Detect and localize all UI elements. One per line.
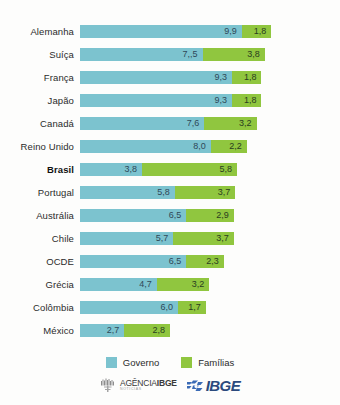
bar-track: 9,31,8 xyxy=(80,71,261,84)
bar-segment-familias: 2,8 xyxy=(124,324,170,337)
bar-segment-familias: 3,2 xyxy=(204,117,256,130)
bar-value-governo: 3,8 xyxy=(125,165,143,174)
agencia-ibge-logo[interactable]: AGÊNCIAIBGE NOTÍCIAS xyxy=(100,378,177,393)
bar-segment-governo: 4,7 xyxy=(80,278,157,291)
bar-value-governo: 4,7 xyxy=(139,280,157,289)
bar-row-label: México xyxy=(0,326,80,336)
bar-value-familias: 2,2 xyxy=(229,142,247,151)
bar-segment-governo: 2,7 xyxy=(80,324,124,337)
legend-label-governo: Governo xyxy=(123,358,159,368)
bar-value-familias: 5,8 xyxy=(219,165,237,174)
bar-row: Canadá7,63,2 xyxy=(0,112,340,135)
bar-segment-governo: 6,5 xyxy=(80,255,186,268)
bar-row: Colômbia6,01,7 xyxy=(0,296,340,319)
bar-value-familias: 2,9 xyxy=(216,211,234,220)
stacked-bar-chart: Alemanha9,91,8Suíça7,,53,8França9,31,8Ja… xyxy=(0,0,340,405)
bar-segment-familias: 3,8 xyxy=(203,48,265,61)
bar-track: 9,31,8 xyxy=(80,94,261,107)
bar-value-familias: 3,8 xyxy=(247,50,265,59)
agencia-ibge-mark-icon xyxy=(100,378,117,393)
bar-track: 9,91,8 xyxy=(80,25,271,38)
bar-value-governo: 2,7 xyxy=(107,326,125,335)
bar-row: México2,72,8 xyxy=(0,319,340,342)
legend-item-governo[interactable]: Governo xyxy=(106,357,159,368)
bar-row: Japão9,31,8 xyxy=(0,89,340,112)
legend-swatch-governo-icon xyxy=(106,357,117,368)
bar-row-label: Alemanha xyxy=(0,27,80,37)
bar-row-label: Reino Unido xyxy=(0,142,80,152)
bar-value-governo: 9,9 xyxy=(224,27,242,36)
bar-value-familias: 2,8 xyxy=(152,326,170,335)
bar-segment-governo: 6,5 xyxy=(80,209,186,222)
bar-value-governo: 6,5 xyxy=(169,211,187,220)
bar-track: 8,02,2 xyxy=(80,140,247,153)
bar-row-label: Suíça xyxy=(0,50,80,60)
bar-row: França9,31,8 xyxy=(0,66,340,89)
chart-legend: Governo Famílias xyxy=(0,357,340,368)
ibge-mark-icon xyxy=(187,379,204,392)
bar-segment-familias: 2,2 xyxy=(211,140,247,153)
bar-track: 3,85,8 xyxy=(80,163,237,176)
bar-segment-familias: 1,7 xyxy=(178,301,206,314)
ibge-wordmark: IBGE xyxy=(206,378,240,393)
bar-row-label: Chile xyxy=(0,234,80,244)
bar-segment-governo: 5,8 xyxy=(80,186,175,199)
bar-value-governo: 5,8 xyxy=(157,188,175,197)
bar-value-familias: 3,2 xyxy=(192,280,210,289)
bar-row: Chile5,73,7 xyxy=(0,227,340,250)
legend-swatch-familias-icon xyxy=(181,357,192,368)
bar-row-label: Grécia xyxy=(0,280,80,290)
bar-track: 6,01,7 xyxy=(80,301,206,314)
bar-segment-familias: 2,9 xyxy=(186,209,233,222)
bar-segment-familias: 1,8 xyxy=(232,71,261,84)
bar-row: Brasil3,85,8 xyxy=(0,158,340,181)
bar-track: 6,52,9 xyxy=(80,209,234,222)
bar-segment-governo: 7,6 xyxy=(80,117,204,130)
agencia-ibge-text: AGÊNCIAIBGE NOTÍCIAS xyxy=(120,379,177,392)
bar-value-governo: 9,3 xyxy=(215,73,233,82)
bar-segment-familias: 3,2 xyxy=(157,278,209,291)
bar-row-label: Austrália xyxy=(0,211,80,221)
bar-segment-governo: 3,8 xyxy=(80,163,142,176)
bar-row-label: Brasil xyxy=(0,165,80,175)
bar-track: 2,72,8 xyxy=(80,324,170,337)
bar-segment-familias: 1,8 xyxy=(242,25,271,38)
bar-row: Alemanha9,91,8 xyxy=(0,20,340,43)
bar-segment-governo: 8,0 xyxy=(80,140,211,153)
bar-value-familias: 1,8 xyxy=(254,27,272,36)
legend-label-familias: Famílias xyxy=(198,358,234,368)
bar-row-label: OCDE xyxy=(0,257,80,267)
ibge-logo[interactable]: IBGE xyxy=(187,378,240,393)
bar-row: Austrália6,52,9 xyxy=(0,204,340,227)
legend-item-familias[interactable]: Famílias xyxy=(181,357,234,368)
bar-track: 4,73,2 xyxy=(80,278,209,291)
bar-value-governo: 6,5 xyxy=(169,257,187,266)
agencia-ibge-subtitle: NOTÍCIAS xyxy=(120,388,177,392)
bar-row: OCDE6,52,3 xyxy=(0,250,340,273)
bar-row: Grécia4,73,2 xyxy=(0,273,340,296)
bar-track: 7,,53,8 xyxy=(80,48,265,61)
footer-logos: AGÊNCIAIBGE NOTÍCIAS IBGE xyxy=(0,378,340,393)
agencia-ibge-title-prefix: AGÊNCIA xyxy=(120,378,157,388)
bar-segment-governo: 9,9 xyxy=(80,25,242,38)
bar-value-familias: 2,3 xyxy=(206,257,224,266)
bar-value-familias: 3,2 xyxy=(239,119,257,128)
chart-plot-area: Alemanha9,91,8Suíça7,,53,8França9,31,8Ja… xyxy=(0,20,340,342)
bar-value-familias: 3,7 xyxy=(216,234,234,243)
bar-segment-governo: 7,,5 xyxy=(80,48,203,61)
bar-row-label: Canadá xyxy=(0,119,80,129)
bar-track: 7,63,2 xyxy=(80,117,257,130)
bar-row-label: França xyxy=(0,73,80,83)
agencia-ibge-title: AGÊNCIAIBGE xyxy=(120,379,177,388)
bar-value-familias: 1,7 xyxy=(188,303,206,312)
bar-segment-familias: 3,7 xyxy=(175,186,235,199)
bar-segment-governo: 9,3 xyxy=(80,71,232,84)
bar-segment-familias: 2,3 xyxy=(186,255,224,268)
bar-value-governo: 7,,5 xyxy=(183,50,203,59)
bar-segment-governo: 6,0 xyxy=(80,301,178,314)
bar-track: 6,52,3 xyxy=(80,255,224,268)
bar-value-governo: 8,0 xyxy=(193,142,211,151)
bar-segment-governo: 5,7 xyxy=(80,232,173,245)
bar-value-familias: 3,7 xyxy=(218,188,236,197)
bar-segment-familias: 5,8 xyxy=(142,163,237,176)
